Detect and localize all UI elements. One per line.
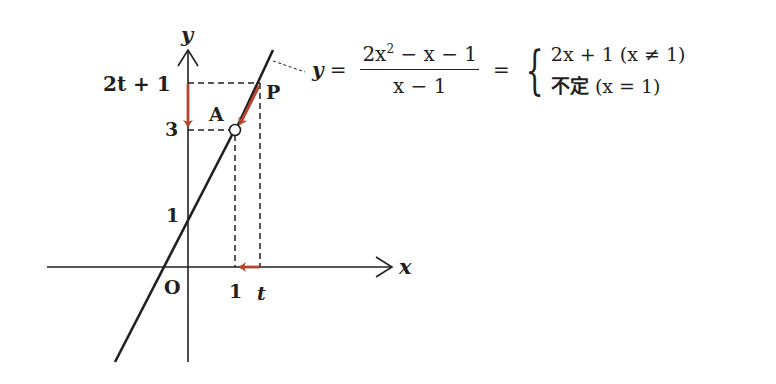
y-tick-2t1-text: 2t + 1 <box>103 72 171 96</box>
formula-leader-line <box>273 61 305 72</box>
case-1: 2x + 1 (x ≠ 1) <box>551 43 686 65</box>
x-axis-label: x <box>399 256 412 277</box>
formula-equals-2: = <box>493 58 510 82</box>
red-arrows <box>188 84 260 267</box>
formula-lhs: y <box>312 58 324 82</box>
formula: y = 2x2 − x − 1 x − 1 = { 2x + 1 (x ≠ 1)… <box>312 38 685 102</box>
point-arrow <box>240 86 259 124</box>
x-tick-t: t <box>257 284 266 303</box>
formula-denominator: x − 1 <box>393 70 446 98</box>
formula-cases: { 2x + 1 (x ≠ 1) 不定 (x = 1) <box>518 43 686 98</box>
case-2-expr: 不定 <box>551 75 589 97</box>
y-tick-2t1: 2t + 1 <box>103 74 171 94</box>
x-tick-1: 1 <box>229 282 242 301</box>
point-p-label: P <box>266 83 280 102</box>
graph-line <box>115 50 273 362</box>
numerator-rest: − x − 1 <box>394 42 477 66</box>
numerator-term: 2x <box>362 42 386 66</box>
origin-label: O <box>164 278 181 297</box>
formula-equals-1: = <box>330 58 347 82</box>
case-2: 不定 (x = 1) <box>551 71 686 98</box>
case-1-expr: 2x + 1 <box>551 43 614 65</box>
guide-lines <box>188 83 260 267</box>
formula-fraction: 2x2 − x − 1 x − 1 <box>360 42 479 98</box>
formula-numerator: 2x2 − x − 1 <box>360 42 479 70</box>
case-2-condition: (x = 1) <box>595 75 661 97</box>
point-a-label: A <box>209 105 224 124</box>
left-brace-icon: { <box>525 44 543 96</box>
y-tick-3: 3 <box>165 120 178 139</box>
y-tick-1: 1 <box>166 206 179 225</box>
y-axis-label: y <box>181 24 193 45</box>
point-a-open-circle <box>230 125 241 136</box>
x-axis <box>47 257 392 277</box>
case-1-condition: (x ≠ 1) <box>620 43 686 65</box>
numerator-exponent: 2 <box>386 42 394 56</box>
